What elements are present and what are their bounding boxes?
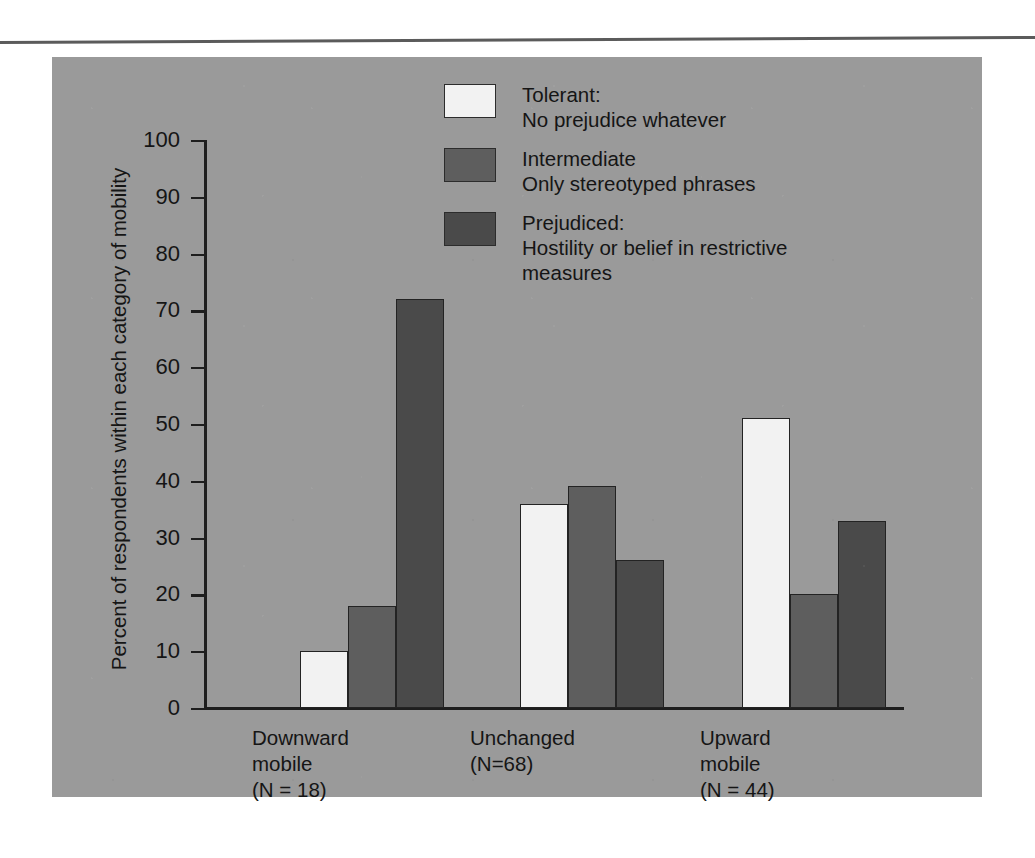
bar-downward-tolerant <box>300 651 348 708</box>
y-tick-10 <box>191 651 205 653</box>
y-tick-label-10: 10 <box>72 640 180 662</box>
y-tick-0 <box>191 708 205 710</box>
y-tick-30 <box>191 538 205 540</box>
y-tick-label-100: 100 <box>72 129 180 151</box>
page-horizontal-rule <box>0 36 1035 44</box>
y-tick-70 <box>191 310 205 312</box>
bar-unchanged-tolerant <box>520 504 568 708</box>
bar-upward-tolerant <box>742 418 790 708</box>
y-tick-label-30: 30 <box>72 527 180 549</box>
x-group-label-unchanged: Unchanged (N=68) <box>470 725 575 777</box>
x-group-label-downward: Downward mobile (N = 18) <box>252 725 349 803</box>
chart-panel: Tolerant: No prejudice whatever Intermed… <box>52 57 982 797</box>
y-tick-80 <box>191 254 205 256</box>
bar-downward-prejudiced <box>396 299 444 708</box>
y-tick-label-70: 70 <box>72 299 180 321</box>
y-tick-60 <box>191 367 205 369</box>
bar-unchanged-prejudiced <box>616 560 664 708</box>
y-tick-label-90: 90 <box>72 186 180 208</box>
y-tick-90 <box>191 197 205 199</box>
bar-downward-intermediate <box>348 606 396 708</box>
y-tick-label-40: 40 <box>72 470 180 492</box>
y-tick-50 <box>191 424 205 426</box>
y-tick-label-80: 80 <box>72 243 180 265</box>
y-tick-label-0: 0 <box>72 697 180 719</box>
figure-page: Tolerant: No prejudice whatever Intermed… <box>0 0 1035 858</box>
y-tick-40 <box>191 481 205 483</box>
plot-area: Percent of respondents within each categ… <box>52 57 982 797</box>
y-tick-label-60: 60 <box>72 356 180 378</box>
bar-upward-prejudiced <box>838 521 886 708</box>
y-tick-label-50: 50 <box>72 413 180 435</box>
y-tick-20 <box>191 594 205 596</box>
bar-unchanged-intermediate <box>568 486 616 708</box>
y-tick-100 <box>191 140 205 142</box>
y-tick-label-20: 20 <box>72 583 180 605</box>
x-group-label-upward: Upward mobile (N = 44) <box>700 725 775 803</box>
bar-upward-intermediate <box>790 594 838 708</box>
